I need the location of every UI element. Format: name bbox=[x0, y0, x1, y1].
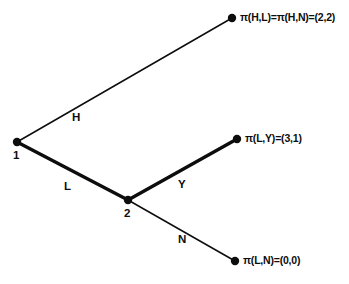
payoff-label-bottom: π(L,N)=(0,0) bbox=[243, 255, 300, 266]
branch-label-h: H bbox=[72, 112, 80, 124]
branch-label-l: L bbox=[64, 181, 71, 193]
branch-line-y bbox=[128, 139, 237, 200]
payoff-label-middle: π(L,Y)=(3,1) bbox=[245, 133, 302, 144]
branch-line-h bbox=[17, 18, 232, 142]
branch-line-l bbox=[17, 142, 128, 200]
decision-node-2-dot bbox=[124, 196, 132, 204]
payoff-label-top: π(H,L)=π(H,N)=(2,2) bbox=[240, 12, 335, 23]
game-tree-diagram: 1 2 H L Y N π(H,L)=π(H,N)=(2,2) π(L,Y)=(… bbox=[0, 0, 349, 284]
terminal-node-top-dot bbox=[228, 14, 236, 22]
branch-line-n bbox=[128, 200, 235, 261]
branch-label-y: Y bbox=[178, 179, 186, 191]
terminal-node-middle-dot bbox=[233, 135, 241, 143]
decision-node-1-label: 1 bbox=[13, 150, 19, 162]
node-dots-group bbox=[13, 14, 241, 265]
decision-node-1-dot bbox=[13, 138, 21, 146]
terminal-node-bottom-dot bbox=[231, 257, 239, 265]
decision-node-2-label: 2 bbox=[124, 208, 130, 220]
branch-lines-group bbox=[17, 18, 237, 261]
branch-label-n: N bbox=[178, 234, 186, 246]
